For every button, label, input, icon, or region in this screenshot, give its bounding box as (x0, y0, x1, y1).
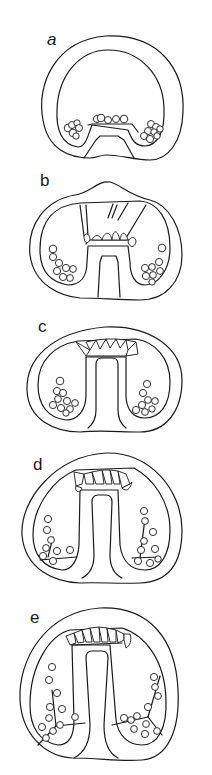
panel-label-d: d (33, 455, 42, 474)
panel-d: d (22, 453, 182, 583)
mesenchyme-cells (38, 663, 162, 745)
central-invagination (98, 256, 120, 297)
panel-c: c (27, 317, 182, 432)
bottle-cells (76, 339, 138, 356)
cell-cluster (49, 244, 166, 285)
central-invagination (88, 358, 126, 428)
mesenchyme-cells (39, 507, 161, 566)
outer-wall (42, 36, 184, 160)
central-invagination (82, 495, 122, 578)
floor-plate (86, 240, 133, 246)
panel-label-b: b (40, 171, 49, 190)
panel-b: b (30, 171, 182, 300)
panel-e: e (20, 608, 178, 761)
bottle-cells (74, 470, 132, 492)
outer-wall (30, 182, 182, 300)
panel-a: a (42, 30, 184, 160)
outer-wall (27, 327, 182, 432)
diagram-figure: a b (0, 0, 212, 775)
panel-label-c: c (38, 317, 47, 336)
cell-cluster (49, 377, 158, 416)
panel-label-e: e (30, 608, 39, 627)
panel-label-a: a (47, 30, 56, 49)
bottle-cells (80, 203, 146, 247)
